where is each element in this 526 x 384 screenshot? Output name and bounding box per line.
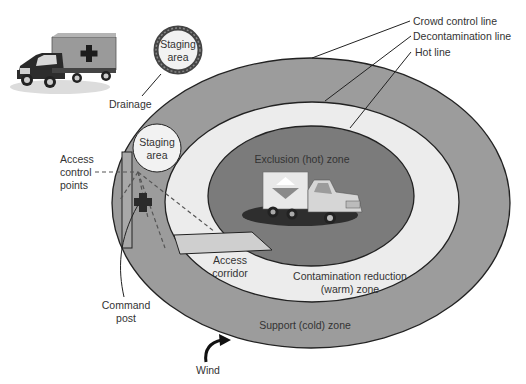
ambulance-truck-icon [10, 33, 116, 94]
staging-area-top-label-2: area [167, 51, 188, 63]
access-corridor-label-2: corridor [212, 267, 248, 279]
access-control-label-1: Access [60, 153, 94, 165]
wind-label: Wind [196, 364, 220, 376]
warm-zone-label-2: (warm) zone [321, 283, 380, 295]
crowd-control-line-label: Crowd control line [413, 15, 497, 27]
staging-area-top-label-1: Staging [160, 38, 196, 50]
staging-area-inner: Staging area [133, 124, 181, 172]
access-control-label-2: control [60, 166, 92, 178]
drainage-pointer [142, 74, 161, 96]
drainage-label: Drainage [109, 98, 152, 110]
access-corridor-label-1: Access [213, 254, 247, 266]
warm-zone-label-1: Contamination reduction [293, 270, 407, 282]
staging-area-top: Staging area [156, 28, 200, 72]
hot-zone-label: Exclusion (hot) zone [254, 153, 349, 165]
curved-arrow-icon [206, 334, 231, 362]
staging-area-inner-label-1: Staging [139, 136, 175, 148]
command-post-area [122, 152, 132, 248]
decontamination-line-label: Decontamination line [413, 30, 511, 42]
hot-line-label: Hot line [415, 46, 451, 58]
staging-area-inner-label-2: area [146, 149, 167, 161]
command-post-label-1: Command [102, 299, 151, 311]
cold-zone-label: Support (cold) zone [259, 319, 351, 331]
access-control-label-3: points [60, 179, 88, 191]
hazmat-zones-diagram: Staging area Drainage Staging area [0, 0, 526, 384]
command-post-label-2: post [116, 312, 136, 324]
